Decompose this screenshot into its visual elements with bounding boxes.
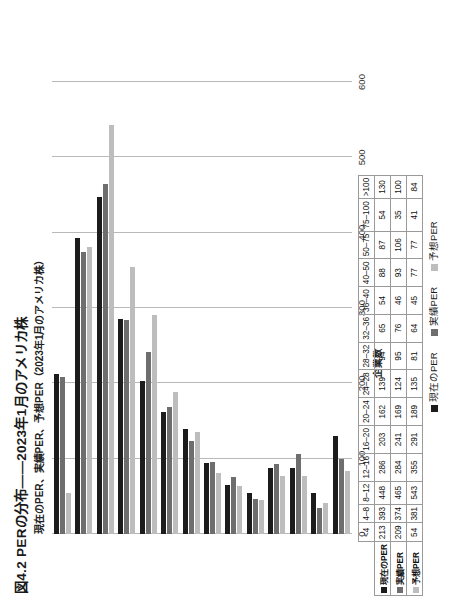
table-cell: 124	[391, 370, 407, 398]
table-row: 現在のPER2133934482862031621399465548887541…	[375, 175, 391, 595]
table-row-header: 実績PER	[391, 542, 407, 596]
page-title: 図4.2 PERの分布——2023年1月のアメリカ株	[10, 316, 30, 594]
chart-bar	[97, 197, 102, 534]
chart-bar	[323, 503, 328, 534]
chart-bar	[54, 374, 59, 534]
table-cell: 130	[375, 175, 391, 198]
table-cell: 45	[407, 287, 423, 315]
table-column-header: >100	[359, 175, 375, 198]
table-column-header: 50–75	[359, 231, 375, 259]
chart-plot-area: 0100200300400500600企業数	[52, 82, 352, 534]
table-cell: 374	[391, 504, 407, 523]
table-cell: 162	[375, 398, 391, 426]
chart-bar	[231, 477, 236, 534]
table-cell: 88	[375, 259, 391, 287]
chart-bar	[247, 493, 252, 534]
table-cell: 100	[391, 175, 407, 198]
chart-bar	[253, 499, 258, 534]
chart-bar	[183, 429, 188, 534]
table-column-header: 8–12	[359, 481, 375, 504]
table-cell: 35	[391, 199, 407, 231]
table-column-header: 16–20	[359, 426, 375, 454]
chart-bar-group	[116, 82, 137, 534]
series-label: 現在のPER	[380, 544, 389, 585]
chart-bar-group	[73, 82, 94, 534]
legend-item: 現在のPER	[426, 352, 440, 412]
table-cell: 81	[407, 342, 423, 370]
table-column-header: 75–100	[359, 199, 375, 231]
table-cell: 284	[391, 453, 407, 481]
legend-swatch-icon	[431, 264, 438, 271]
table-cell: 169	[391, 398, 407, 426]
chart-bar	[75, 238, 80, 534]
chart-bar	[130, 267, 135, 534]
table-row: 予想PER5438154335529118913581644577774184	[407, 175, 423, 595]
chart-bar	[140, 381, 145, 534]
chart-bar	[161, 412, 166, 534]
chart-bar	[333, 436, 338, 534]
series-swatch-icon	[381, 587, 387, 593]
table-cell: 209	[391, 523, 407, 542]
table-cell: 94	[375, 342, 391, 370]
legend-swatch-icon	[431, 405, 438, 412]
table-row-header: 現在のPER	[375, 542, 391, 596]
table-cell: 87	[375, 231, 391, 259]
chart-bar	[152, 315, 157, 534]
chart-bar	[118, 319, 123, 534]
table-cell: 381	[407, 504, 423, 523]
series-label: 実績PER	[396, 552, 405, 585]
table-cell: 41	[407, 199, 423, 231]
axis-tick-label: 600	[356, 74, 367, 90]
table-column-header: <4	[359, 523, 375, 542]
table-cell: 54	[375, 199, 391, 231]
table-row-header: 予想PER	[407, 542, 423, 596]
chart-bar-group	[245, 82, 266, 534]
legend-item: 実績PER	[426, 287, 440, 337]
chart-bar	[173, 392, 178, 534]
chart-bar-group	[223, 82, 244, 534]
legend-swatch-icon	[431, 329, 438, 336]
chart-bar	[146, 352, 151, 534]
chart-bar	[60, 377, 65, 534]
table-cell: 54	[375, 287, 391, 315]
figure-page: 図4.2 PERの分布——2023年1月のアメリカ株 現在のPER、実績PER、…	[0, 0, 464, 608]
table-cell: 77	[407, 231, 423, 259]
table-cell: 64	[407, 314, 423, 342]
table-cell: 46	[391, 287, 407, 315]
table-cell: 77	[407, 259, 423, 287]
chart-bar	[237, 486, 242, 534]
chart-bar-group	[202, 82, 223, 534]
chart-bar	[87, 247, 92, 534]
chart-bar-group	[159, 82, 180, 534]
table-header-row: <44–88–1212–1616–2020–2424–2828–3232–363…	[359, 175, 375, 595]
legend-item: 予想PER	[426, 221, 440, 271]
table-column-header: 40–50	[359, 259, 375, 287]
axis-tick-label: 500	[356, 149, 367, 165]
figure-subtitle: 現在のPER、実績PER、予想PER（2023年1月のアメリカ株）	[31, 255, 46, 535]
table-corner-cell	[359, 542, 375, 596]
table-cell: 95	[391, 342, 407, 370]
chart-bar	[290, 468, 295, 534]
chart-bar	[103, 184, 108, 534]
table-cell: 291	[407, 426, 423, 454]
table-cell: 84	[407, 175, 423, 198]
chart-bar	[195, 432, 200, 534]
table-cell: 241	[391, 426, 407, 454]
chart-bar	[311, 493, 316, 534]
table-column-header: 12–16	[359, 453, 375, 481]
table-cell: 286	[375, 453, 391, 481]
table-cell: 465	[391, 481, 407, 504]
chart-bar-group	[181, 82, 202, 534]
chart-bar	[66, 493, 71, 534]
chart-bar-group	[288, 82, 309, 534]
chart-bar	[204, 463, 209, 534]
table-column-header: 28–32	[359, 342, 375, 370]
table-cell: 543	[407, 481, 423, 504]
legend-label: 現在のPER	[428, 352, 439, 402]
series-swatch-icon	[397, 587, 403, 593]
chart-bar	[296, 454, 301, 534]
chart-bar	[274, 464, 279, 534]
table-cell: 135	[407, 370, 423, 398]
chart-bar	[259, 500, 264, 534]
chart-bar	[302, 476, 307, 534]
